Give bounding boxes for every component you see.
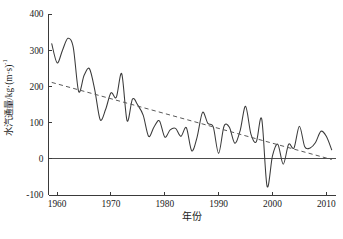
y-tick-label: -100 bbox=[26, 190, 43, 200]
x-axis-title: 年份 bbox=[182, 211, 202, 222]
trend-line-dashed bbox=[52, 82, 332, 159]
axes-group bbox=[49, 14, 337, 195]
x-axis-title-wrap: 年份 bbox=[48, 206, 336, 224]
water-vapor-flux-chart-figure: -1000100200300400 1960197019801990200020… bbox=[0, 0, 343, 239]
y-tick-label: 300 bbox=[29, 46, 43, 56]
y-tick-label: 200 bbox=[29, 82, 43, 92]
y-tick-label: 0 bbox=[39, 154, 44, 164]
data-series-line bbox=[52, 38, 332, 187]
series-group bbox=[52, 38, 332, 187]
y-tick-label: 400 bbox=[29, 9, 43, 19]
y-tick-label: 100 bbox=[29, 118, 43, 128]
chart-canvas: -1000100200300400 1960197019801990200020… bbox=[0, 0, 343, 239]
